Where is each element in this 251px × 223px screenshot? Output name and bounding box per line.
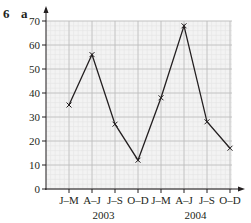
x-tick-label: O–D xyxy=(219,194,240,206)
grid-background xyxy=(46,21,232,189)
x-tick-label: A–J xyxy=(83,194,101,206)
y-tick-label: 10 xyxy=(29,159,41,171)
year-label: 2004 xyxy=(185,209,208,221)
line-chart: 010203040506070J–MA–JJ–SO–DJ–MA–JJ–SO–D2… xyxy=(0,0,251,223)
y-tick-label: 60 xyxy=(29,39,41,51)
x-tick-label: O–D xyxy=(127,194,148,206)
y-axis-arrow-icon xyxy=(44,6,49,13)
x-tick-label: J–M xyxy=(59,194,79,206)
y-tick-label: 50 xyxy=(29,63,41,75)
y-tick-label: 20 xyxy=(29,135,41,147)
y-tick-label: 30 xyxy=(29,111,41,123)
x-axis-arrow-icon xyxy=(238,187,245,192)
x-tick-label: J–M xyxy=(151,194,171,206)
x-tick-label: J–S xyxy=(107,194,123,206)
x-tick-label: A–J xyxy=(175,194,193,206)
x-tick-label: J–S xyxy=(199,194,215,206)
y-tick-label: 0 xyxy=(35,183,41,195)
year-label: 2003 xyxy=(93,209,116,221)
y-tick-label: 70 xyxy=(29,15,41,27)
y-tick-label: 40 xyxy=(29,87,41,99)
